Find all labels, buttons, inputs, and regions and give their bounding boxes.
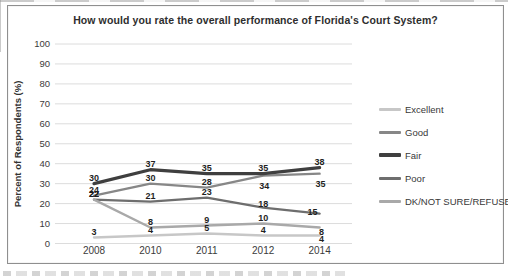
data-label: 35 [202, 163, 212, 173]
data-label: 15 [308, 207, 318, 217]
data-label: 38 [315, 157, 325, 167]
legend-label: Excellent [405, 104, 444, 115]
data-label: 4 [261, 225, 266, 235]
legend-swatch-line [379, 131, 401, 134]
x-tick-label: 2010 [139, 245, 162, 256]
y-tick-label: 0 [45, 238, 50, 249]
legend-item: Poor [379, 171, 508, 185]
y-tick-label: 30 [39, 178, 50, 189]
data-label: 8 [148, 217, 153, 227]
data-label: 30 [145, 173, 155, 183]
legend-swatch-line [379, 153, 401, 157]
data-label: 18 [258, 199, 268, 209]
data-label: 8 [319, 227, 324, 237]
y-tick-label: 90 [39, 58, 50, 69]
data-label: 35 [316, 179, 326, 189]
x-tick-label: 2008 [83, 245, 106, 256]
legend-label: Fair [405, 150, 421, 161]
series-line-excellent [94, 234, 320, 238]
legend-label: Poor [405, 173, 425, 184]
series-line-poor [94, 198, 320, 214]
x-tick-label: 2012 [252, 245, 275, 256]
screenshot-root: { "title": "How would you rate the overa… [0, 0, 508, 277]
y-tick-label: 10 [39, 218, 50, 229]
cropped-page-line-artifact-left [0, 0, 1, 52]
data-label: 9 [204, 215, 209, 225]
y-tick-label: 70 [39, 98, 50, 109]
data-label: 35 [258, 163, 268, 173]
legend-item: Excellent [379, 102, 508, 116]
y-tick-label: 100 [34, 38, 50, 49]
data-label: 34 [259, 181, 269, 191]
y-tick-label: 40 [39, 158, 50, 169]
y-tick-label: 50 [39, 138, 50, 149]
legend-item: Good [379, 125, 508, 139]
legend-item: DK/NOT SURE/REFUSE [379, 194, 508, 208]
data-label: 21 [145, 191, 155, 201]
data-label: 23 [202, 187, 212, 197]
legend: ExcellentGoodFairPoorDK/NOT SURE/REFUSE [379, 102, 508, 217]
chart-frame: How would you rate the overall performan… [7, 5, 504, 264]
data-label: 3 [91, 227, 96, 237]
y-tick-label: 60 [39, 118, 50, 129]
cropped-page-text-artifact-bottom [3, 271, 345, 276]
legend-swatch-line [379, 108, 401, 111]
legend-item: Fair [379, 148, 508, 162]
x-tick-label: 2014 [308, 245, 331, 256]
y-tick-label: 80 [39, 78, 50, 89]
legend-swatch-line [379, 200, 401, 203]
data-label: 30 [89, 173, 99, 183]
data-label: 28 [202, 177, 212, 187]
legend-label: DK/NOT SURE/REFUSE [405, 196, 508, 207]
legend-swatch-line [379, 177, 401, 180]
legend-label: Good [405, 127, 428, 138]
data-label: 10 [258, 213, 268, 223]
cropped-page-text-artifact-top [0, 0, 508, 2]
x-tick-label: 2011 [196, 245, 218, 256]
data-label: 22 [89, 189, 99, 199]
y-tick-label: 20 [39, 198, 50, 209]
data-label: 37 [145, 159, 155, 169]
